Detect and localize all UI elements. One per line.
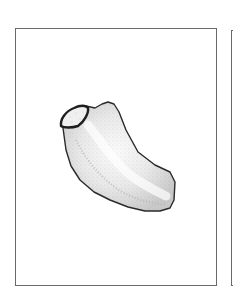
specimen-illustration [0, 0, 233, 303]
